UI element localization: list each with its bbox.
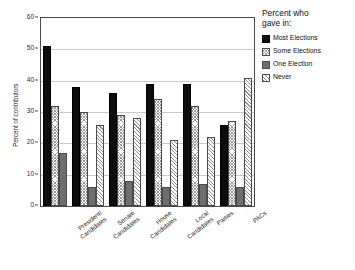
y-tick-label: 60 (27, 14, 34, 21)
y-tick-label: 50 (27, 45, 34, 52)
legend-item-label: Most Elections (273, 35, 318, 42)
legend-item-label: One Election (273, 61, 312, 68)
bar (199, 184, 207, 206)
legend-items: Most ElectionsSome ElectionsOne Election… (262, 35, 354, 82)
legend-item: One Election (262, 61, 354, 69)
x-axis-label-line: Parties (215, 209, 235, 227)
y-tick-mark (35, 48, 38, 49)
legend-title-line-1: Percent who (262, 8, 354, 18)
bar (43, 46, 51, 206)
legend-swatch-icon (262, 35, 270, 43)
bar (88, 187, 96, 206)
bar (72, 87, 80, 206)
bar-group (109, 18, 141, 206)
y-tick-label: 0 (30, 202, 34, 209)
y-tick-mark (35, 173, 38, 174)
bar (80, 112, 88, 206)
bar (146, 84, 154, 206)
x-axis-label: PresidentlCandidates (74, 209, 108, 240)
bar (244, 78, 252, 206)
bar (59, 153, 67, 206)
bar (125, 181, 133, 206)
bar-group (43, 18, 67, 206)
chart-legend: Percent who gave in: Most ElectionsSome … (262, 8, 354, 87)
y-tick-mark (35, 111, 38, 112)
bar-groups (41, 18, 254, 206)
legend-swatch-icon (262, 48, 270, 56)
legend-item: Some Elections (262, 48, 354, 56)
x-axis-labels: PresidentlCandidatesSenateCandidatesHous… (41, 207, 254, 269)
y-tick-label: 20 (27, 139, 34, 146)
legend-item-label: Never (273, 74, 291, 81)
y-tick-label: 40 (27, 76, 34, 83)
y-axis-title: Percent of contributors (13, 55, 19, 175)
bar (236, 187, 244, 206)
x-axis-label: SenateCandidates (107, 209, 141, 240)
x-axis-label: HouseCandidates (144, 209, 178, 240)
legend-title: Percent who gave in: (262, 8, 354, 29)
bar-group (220, 18, 252, 206)
legend-item: Most Elections (262, 35, 354, 43)
legend-item-label: Some Elections (273, 48, 321, 55)
bar (191, 106, 199, 206)
bar (96, 125, 104, 206)
bar (220, 125, 228, 206)
y-tick-mark (35, 205, 38, 206)
bar (109, 93, 117, 206)
bar (154, 99, 162, 206)
x-axis-label: Parties (215, 209, 235, 227)
bar-group (183, 18, 215, 206)
bar (207, 137, 215, 206)
bar (228, 121, 236, 206)
y-tick-mark (35, 17, 38, 18)
bar (133, 118, 141, 206)
bar-group (146, 18, 178, 206)
bar-group (72, 18, 104, 206)
x-axis-label: PACs (251, 209, 268, 225)
y-tick-mark (35, 79, 38, 80)
y-tick-label: 30 (27, 108, 34, 115)
x-axis-label: LocalCandidates (181, 209, 215, 240)
legend-swatch-icon (262, 74, 270, 82)
chart-figure: 0102030405060 Percent of contributors Pr… (0, 0, 355, 270)
legend-swatch-icon (262, 61, 270, 69)
y-tick-label: 10 (27, 170, 34, 177)
x-axis-label-line: PACs (251, 209, 268, 225)
bar (51, 106, 59, 206)
bar (162, 187, 170, 206)
bar (117, 115, 125, 206)
legend-title-line-2: gave in: (262, 18, 354, 28)
bar (170, 140, 178, 206)
y-tick-mark (35, 142, 38, 143)
legend-item: Never (262, 74, 354, 82)
bar (183, 84, 191, 206)
